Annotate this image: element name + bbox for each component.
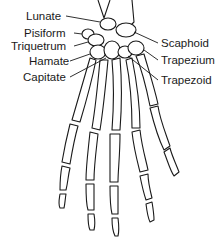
thumb-distal-phalanx [164,148,179,176]
lunate-bone [100,18,116,30]
label-pisiform: Pisiform [24,27,66,39]
label-hamate: Hamate [29,55,69,67]
middle-distal [112,218,119,236]
label-scaphoid: Scaphoid [161,37,209,49]
little-proximal [62,124,78,164]
thumb-proximal-phalanx [150,106,170,150]
middle-proximal [110,134,120,182]
ulna [98,0,110,18]
little-metacarpal [72,58,96,122]
little-distal [59,194,66,208]
trapezium-bone [128,41,144,55]
hamate-bone [90,45,106,59]
ring-middle [86,184,94,210]
ring-metacarpal [92,60,108,130]
index-proximal [132,130,148,172]
thumb-metacarpal [136,54,158,106]
label-trapezium: Trapezium [161,54,215,66]
middle-metacarpal [112,58,122,130]
index-distal [146,202,154,222]
little-middle [60,166,70,190]
ring-distal [88,214,95,230]
label-trapezoid: Trapezoid [161,74,212,86]
capitate-bone [104,41,120,59]
index-metacarpal [126,58,140,128]
index-middle [140,174,152,200]
label-triquetrum: Triquetrum [11,40,66,52]
middle-middle [110,186,118,214]
label-lunate: Lunate [26,10,61,22]
ring-proximal [86,132,98,180]
scaphoid-bone [116,23,136,37]
label-capitate: Capitate [23,71,66,83]
triquetrum-bone [88,34,104,46]
